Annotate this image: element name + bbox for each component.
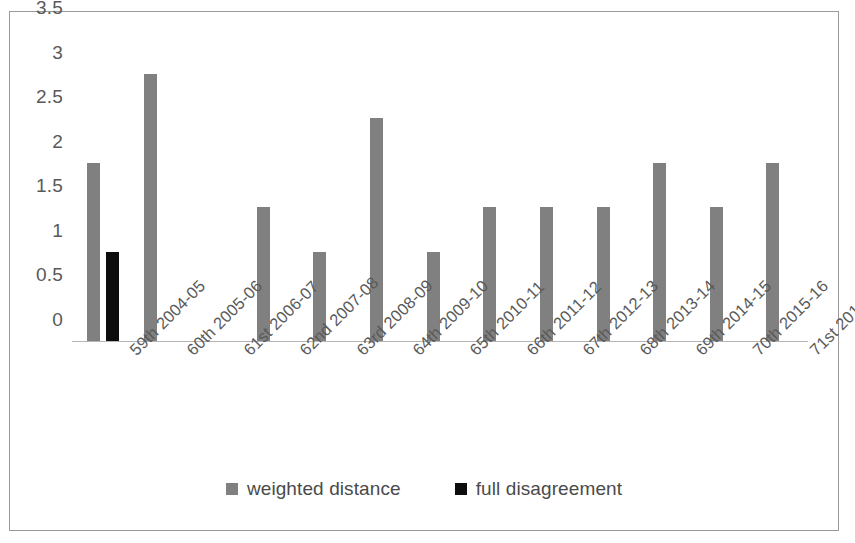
x-axis-tick-label: 60th 2005-06 bbox=[183, 346, 196, 359]
legend-item-weighted-distance[interactable]: weighted distance bbox=[226, 478, 401, 500]
x-axis-tick-label: 61st 2006-07 bbox=[240, 346, 253, 359]
x-axis-tick-label: 67th 2012-13 bbox=[579, 346, 592, 359]
x-axis-labels: 59th 2004-0560th 2005-0661st 2006-0762nd… bbox=[72, 346, 832, 466]
y-axis-tick-3: 3 bbox=[52, 42, 63, 64]
bar-group bbox=[72, 29, 129, 341]
x-axis-tick-label: 65th 2010-11 bbox=[466, 346, 479, 359]
bar-weighted-distance[interactable] bbox=[766, 163, 779, 341]
x-axis-tick-label: 59th 2004-05 bbox=[126, 346, 139, 359]
x-axis-tick-label: 69th 2014-15 bbox=[692, 346, 705, 359]
x-axis-tick-label: 64th 2009-10 bbox=[409, 346, 422, 359]
y-axis-tick-2-5: 2.5 bbox=[36, 86, 63, 108]
legend-swatch-icon bbox=[455, 483, 467, 495]
bar-weighted-distance[interactable] bbox=[87, 163, 100, 341]
chart-frame: 00.511.522.533.5 59th 2004-0560th 2005-0… bbox=[9, 11, 839, 531]
y-axis-tick-1: 1 bbox=[52, 220, 63, 242]
legend-label: full disagreement bbox=[476, 478, 622, 500]
y-axis-tick-2: 2 bbox=[52, 131, 63, 153]
x-axis-tick-label: 70th 2015-16 bbox=[749, 346, 762, 359]
y-axis-tick-3-5: 3.5 bbox=[36, 0, 63, 19]
bar-full-disagreement[interactable] bbox=[106, 252, 119, 341]
y-axis-tick-0-5: 0.5 bbox=[36, 264, 63, 286]
y-axis-tick-0: 0 bbox=[52, 309, 63, 331]
bar-weighted-distance[interactable] bbox=[653, 163, 666, 341]
bar-weighted-distance[interactable] bbox=[370, 118, 383, 341]
x-axis-tick-label: 66th 2011-12 bbox=[523, 346, 536, 359]
x-axis-tick-label: 71st 2016-17 bbox=[806, 346, 819, 359]
y-axis-tick-1-5: 1.5 bbox=[36, 175, 63, 197]
x-axis-tick-label: 62nd 2007-08 bbox=[296, 346, 309, 359]
legend-label: weighted distance bbox=[247, 478, 401, 500]
x-axis-tick-label: 68th 2013-14 bbox=[636, 346, 649, 359]
legend-swatch-icon bbox=[226, 483, 238, 495]
chart-legend: weighted distancefull disagreement bbox=[10, 478, 838, 500]
x-axis-tick-label: 63rd 2008-09 bbox=[353, 346, 366, 359]
legend-item-full-disagreement[interactable]: full disagreement bbox=[455, 478, 622, 500]
bar-weighted-distance[interactable] bbox=[144, 74, 157, 341]
